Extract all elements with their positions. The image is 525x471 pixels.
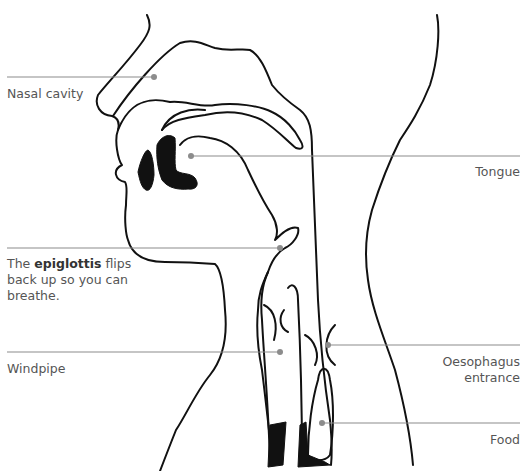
label-windpipe: Windpipe [7, 361, 65, 377]
dot-windpipe [277, 349, 283, 355]
face-outline [97, 15, 226, 471]
epiglottis-line-2: back up so you can [7, 272, 131, 288]
label-oesophagus-entrance: Oesophagus entrance [442, 354, 520, 386]
dot-nasal-cavity [151, 74, 157, 80]
oesophagus-line-2: entrance [442, 370, 520, 386]
nasal-cavity-outline [113, 41, 312, 150]
epiglottis-line-3: breathe. [7, 288, 131, 304]
dot-epiglottis [277, 245, 283, 251]
label-epiglottis: The epiglottis flips back up so you can … [7, 256, 131, 304]
soft-palate [118, 100, 303, 149]
tongue-tip-fill [157, 136, 197, 190]
oesophagus-line-1: Oesophagus [442, 354, 520, 370]
label-nasal-cavity: Nasal cavity [7, 86, 83, 102]
windpipe-base-fill [268, 422, 286, 467]
neck-back-outline [366, 15, 438, 465]
throat-back-wall [312, 150, 332, 465]
dot-food [319, 420, 325, 426]
epiglottis-line-1: The epiglottis flips [7, 256, 131, 272]
trachea-ring-right [281, 310, 288, 332]
trachea-ring-left [264, 305, 276, 340]
label-tongue: Tongue [475, 164, 520, 180]
label-food: Food [490, 432, 520, 448]
dot-tongue [188, 153, 194, 159]
oesophagus-bulge-left [305, 335, 317, 365]
windpipe-outline [261, 272, 270, 460]
epiglottis-term: epiglottis [34, 256, 101, 271]
lips-fill [138, 150, 154, 190]
swallowing-diagram [0, 0, 525, 471]
oesophagus-base-fill [298, 422, 330, 467]
dot-oesophagus [325, 342, 331, 348]
